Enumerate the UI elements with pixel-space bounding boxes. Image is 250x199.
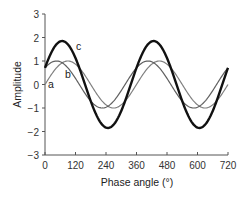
svg-text:0: 0 <box>42 160 48 171</box>
label-a: a <box>48 78 54 90</box>
y-axis-label: Amplitude <box>11 61 23 108</box>
svg-text:360: 360 <box>128 160 145 171</box>
label-b: b <box>65 68 71 80</box>
svg-text:1: 1 <box>33 56 39 67</box>
phase-chart: 3 2 1 0 −1 −2 −3 0 120 240 360 480 600 7… <box>0 0 250 199</box>
svg-text:−1: −1 <box>28 103 40 114</box>
svg-text:0: 0 <box>33 80 39 91</box>
x-tick-labels: 0 120 240 360 480 600 720 <box>42 160 237 171</box>
x-axis-label: Phase angle (°) <box>101 176 174 188</box>
svg-text:−2: −2 <box>28 127 40 138</box>
svg-text:720: 720 <box>220 160 237 171</box>
svg-text:120: 120 <box>67 160 84 171</box>
y-tick-labels: 3 2 1 0 −1 −2 −3 <box>28 9 40 161</box>
svg-text:3: 3 <box>33 9 39 20</box>
svg-text:600: 600 <box>189 160 206 171</box>
svg-text:2: 2 <box>33 33 39 44</box>
svg-text:240: 240 <box>98 160 115 171</box>
label-c: c <box>76 40 81 52</box>
svg-text:−3: −3 <box>28 150 40 161</box>
svg-text:480: 480 <box>159 160 176 171</box>
